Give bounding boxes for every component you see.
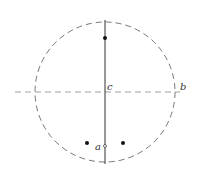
right-dot: [121, 141, 125, 145]
label-b: b: [180, 81, 186, 92]
top-dot: [103, 36, 107, 40]
label-c: c: [107, 81, 113, 92]
left-dot: [85, 141, 89, 145]
point-a-marker: [104, 145, 107, 148]
label-a: a: [95, 141, 101, 152]
circle-diagram: c b a: [0, 0, 198, 181]
